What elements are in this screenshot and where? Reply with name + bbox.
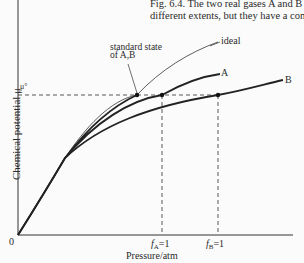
point-b bbox=[216, 93, 220, 97]
ideal-label: ideal bbox=[221, 35, 240, 46]
curve-a bbox=[18, 74, 220, 235]
curve-b bbox=[18, 80, 283, 235]
standard-state-point bbox=[135, 93, 139, 97]
curve-b-label: B bbox=[285, 74, 292, 85]
fb-label: fB=1 bbox=[206, 238, 224, 251]
origin-label: 0 bbox=[9, 236, 14, 247]
chart-plot bbox=[0, 0, 304, 263]
standard-state-label: standard state of A,B bbox=[110, 42, 162, 60]
x-axis-label: Pressure/atm bbox=[126, 250, 178, 261]
standard-state-leader bbox=[128, 64, 137, 93]
ideal-curve bbox=[18, 42, 218, 235]
curve-a-label: A bbox=[221, 67, 228, 78]
mu-standard-label: μ° bbox=[20, 82, 28, 91]
ideal-leader bbox=[210, 42, 220, 46]
point-a bbox=[160, 93, 164, 97]
y-axis-label: Chemical potential μ bbox=[10, 74, 22, 194]
